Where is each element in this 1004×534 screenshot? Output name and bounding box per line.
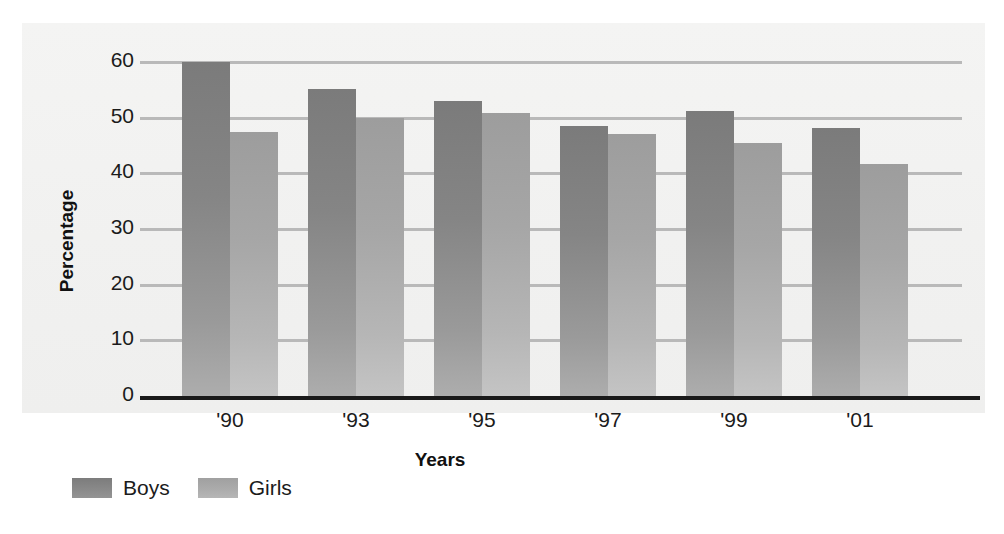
legend-swatch-boys-icon [72,478,112,498]
y-axis-title: Percentage [56,181,78,301]
y-tick-mark-50 [142,117,164,120]
legend-swatch-girls-icon [198,478,238,498]
bar-boys-01[interactable] [812,128,860,396]
y-tick-label-20: 20 [88,271,134,295]
bar-girls-90[interactable] [230,132,278,396]
x-tick-label-97: '97 [563,408,653,432]
legend-item-girls[interactable]: Girls [198,476,292,500]
bar-boys-97[interactable] [560,126,608,396]
bar-girls-95[interactable] [482,113,530,396]
legend-label-boys: Boys [123,476,170,500]
y-tick-label-50: 50 [88,104,134,128]
bar-girls-01[interactable] [860,164,908,396]
y-tick-label-30: 30 [88,215,134,239]
bar-boys-95[interactable] [434,101,482,396]
y-tick-label-10: 10 [88,326,134,350]
bar-boys-90[interactable] [182,62,230,396]
y-tick-label-0: 0 [88,382,134,406]
legend-item-boys[interactable]: Boys [72,476,170,500]
legend-label-girls: Girls [249,476,292,500]
y-tick-mark-10 [142,339,164,342]
bar-boys-99[interactable] [686,111,734,396]
chart-legend: Boys Girls [72,476,292,500]
y-tick-mark-30 [142,228,164,231]
y-tick-mark-60 [142,61,164,64]
gridline-50 [140,117,962,120]
y-tick-mark-20 [142,284,164,287]
x-tick-label-93: '93 [311,408,401,432]
x-axis-title: Years [360,449,520,471]
x-tick-label-90: '90 [185,408,275,432]
x-axis-line [140,396,980,400]
x-tick-label-99: '99 [689,408,779,432]
bar-girls-97[interactable] [608,134,656,396]
x-tick-label-01: '01 [815,408,905,432]
gridline-60 [140,61,962,64]
bar-boys-93[interactable] [308,89,356,396]
bar-girls-93[interactable] [356,118,404,396]
bar-chart-figure: 0102030405060 '90'93'95'97'99'01 Percent… [0,0,1004,534]
y-tick-label-40: 40 [88,159,134,183]
x-tick-label-95: '95 [437,408,527,432]
y-tick-mark-40 [142,172,164,175]
y-tick-label-60: 60 [88,48,134,72]
bar-girls-99[interactable] [734,143,782,396]
